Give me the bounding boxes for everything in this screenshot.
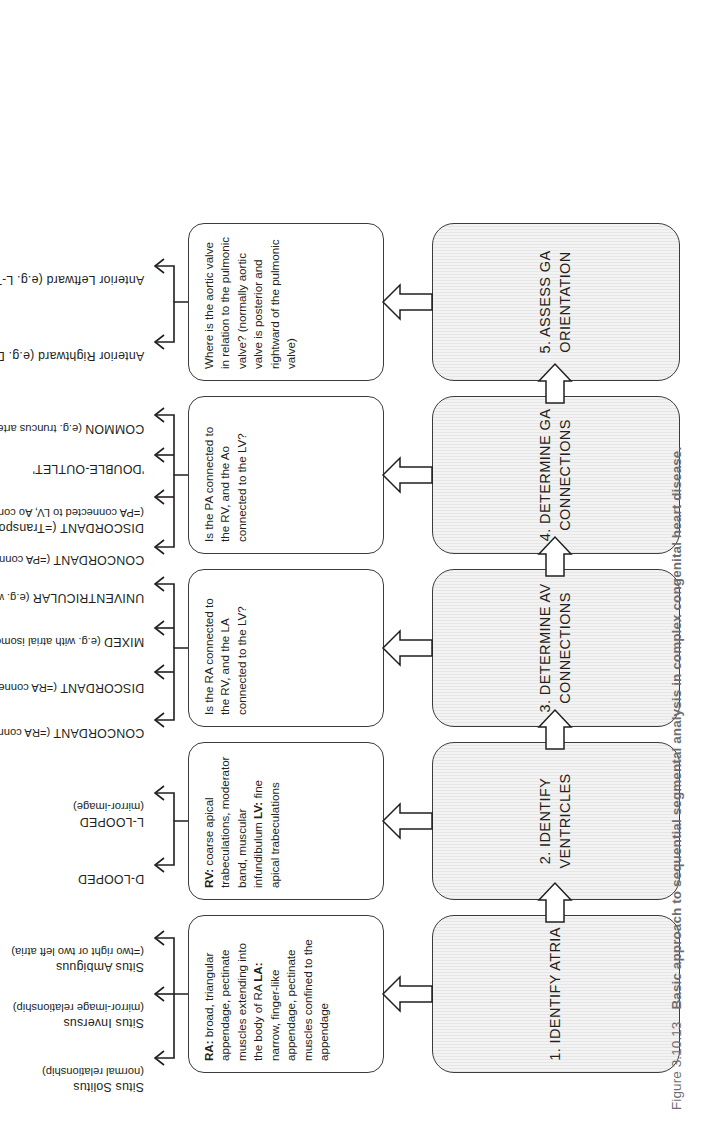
process-box-label: 5. ASSESS GA ORIENTATION xyxy=(536,224,575,380)
branch-connector-atria xyxy=(144,908,188,1078)
figure-caption: Figure 3.10.13 Basic approach to sequent… xyxy=(661,50,691,1110)
branch-connector-ga xyxy=(144,389,188,559)
description-text: Where is the aortic valve in relation to… xyxy=(201,235,300,369)
process-box-label: 1. IDENTIFY ATRIA xyxy=(546,917,566,1071)
flow-arrow-up-atria xyxy=(382,976,432,1012)
output-label-ga-common: COMMON (e.g. truncus arteriosus) xyxy=(0,421,144,437)
outputs-ga-orientation: Anterior Rightward (e.g. D-Transposition… xyxy=(0,216,144,386)
flow-arrow-up-av xyxy=(382,630,432,666)
description-box-atria: RA: broad, triangular appendage, pectina… xyxy=(188,915,384,1073)
output-label-ga-concordant: CONCORDANT (=PA connected to RV, etc) xyxy=(0,552,144,568)
process-box-identify-ventricles[interactable]: 2. IDENTIFY VENTRICLES xyxy=(432,742,680,900)
figure-number: Figure 3.10.13 xyxy=(668,1021,683,1109)
description-text: Is the PA connected to the RV, and the A… xyxy=(201,408,250,542)
process-box-label: 4. DETERMINE GA CONNECTIONS xyxy=(536,397,575,553)
output-label-av-mixed: MIXED (e.g. with atrial isomerism) xyxy=(0,634,144,650)
description-box-ga-connections: Is the PA connected to the RV, and the A… xyxy=(188,396,384,554)
output-label-anterior-rightward: Anterior Rightward (e.g. D-Transposition… xyxy=(0,348,144,364)
output-label-av-discordant: DISCORDANT (=RA connected to LV, LA conn… xyxy=(0,680,144,696)
chevron-icon-3-to-4 xyxy=(538,536,572,576)
output-label-ga-double-outlet: 'DOUBLE-OUTLET' xyxy=(32,461,144,477)
process-box-label: 2. IDENTIFY VENTRICLES xyxy=(536,743,575,899)
description-box-ga-orientation: Where is the aortic valve in relation to… xyxy=(188,223,384,381)
branch-connector-ventricles xyxy=(144,735,188,905)
output-label-situs-ambiguus: Situs Ambiguus (=two right or two left a… xyxy=(11,944,144,975)
output-label-ga-discordant: DISCORDANT (=Transposition) (=PA connect… xyxy=(0,505,144,536)
description-text: RV: coarse apical trabeculations, modera… xyxy=(201,754,283,888)
process-box-ga-connections[interactable]: 4. DETERMINE GA CONNECTIONS xyxy=(432,396,680,554)
branch-connector-av xyxy=(144,562,188,732)
outputs-ga-connections: CONCORDANT (=PA connected to RV, etc) DI… xyxy=(0,389,144,559)
outputs-av-connections: CONCORDANT (=RA connected to RV, etc) DI… xyxy=(0,562,144,732)
description-text: Is the RA connected to the RV, and the L… xyxy=(201,581,250,715)
description-box-av-connections: Is the RA connected to the RV, and the L… xyxy=(188,569,384,727)
output-label-d-looped: D-LOOPED xyxy=(77,871,143,887)
output-label-situs-inversus: Situs Inversus (mirror-image relationshi… xyxy=(12,1000,143,1031)
process-box-identify-atria[interactable]: 1. IDENTIFY ATRIA xyxy=(432,915,680,1073)
output-label-av-concordant: CONCORDANT (=RA connected to RV, etc) xyxy=(0,725,144,741)
output-label-av-univentricular: UNIVENTRICULAR (e.g. with double-inlet v… xyxy=(0,590,144,606)
description-box-ventricles: RV: coarse apical trabeculations, modera… xyxy=(188,742,384,900)
figure-caption-text: Basic approach to sequential segmental a… xyxy=(668,446,683,1009)
flow-arrow-up-ga xyxy=(382,457,432,493)
figure-stage: 1. IDENTIFY ATRIA RA: broad, triangular … xyxy=(60,58,680,1078)
chevron-icon-1-to-2 xyxy=(538,882,572,922)
process-box-ga-orientation[interactable]: 5. ASSESS GA ORIENTATION xyxy=(432,223,680,381)
chevron-icon-4-to-5 xyxy=(538,363,572,403)
flow-arrow-up-ventricles xyxy=(382,803,432,839)
output-label-anterior-leftward: Anterior Leftward (e.g. L-Transposition) xyxy=(0,272,144,288)
outputs-ventricles: D-LOOPED L-LOOPED (mirror-image) xyxy=(0,735,144,905)
process-box-av-connections[interactable]: 3. DETERMINE AV CONNECTIONS xyxy=(432,569,680,727)
process-box-label: 3. DETERMINE AV CONNECTIONS xyxy=(536,570,575,726)
branch-connector-orientation xyxy=(144,216,188,386)
description-text: RA: broad, triangular appendage, pectina… xyxy=(201,927,333,1061)
chevron-icon-2-to-3 xyxy=(538,709,572,749)
outputs-atria: Situs Solitus (normal relationship) Situ… xyxy=(0,908,144,1078)
output-label-situs-solitus: Situs Solitus (normal relationship) xyxy=(42,1064,144,1095)
flow-arrow-up-orientation xyxy=(382,284,432,320)
output-label-l-looped: L-LOOPED (mirror-image) xyxy=(73,799,144,830)
